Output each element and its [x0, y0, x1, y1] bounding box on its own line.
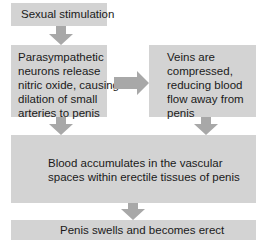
arrow-down-icon: [49, 26, 73, 45]
node-parasympathetic: Parasympathetic neurons release nitric o…: [11, 45, 107, 117]
node-penis-erect: Penis swells and becomes erect: [11, 220, 256, 240]
node-text: Veins are: [167, 50, 256, 64]
node-veins-compressed: Veins are compressed, reducing blood flo…: [149, 45, 256, 117]
node-blood-accumulates: Blood accumulates in the vascular spaces…: [11, 135, 256, 203]
node-text: neurons release: [18, 64, 107, 78]
arrow-right-icon: [114, 71, 149, 95]
node-text: dilation of small: [18, 92, 107, 106]
node-text: compressed,: [167, 64, 256, 78]
node-text: nitric oxide, causing: [18, 78, 107, 92]
node-text: flow away from: [167, 92, 256, 106]
node-text: Sexual stimulation: [21, 7, 107, 21]
arrow-down-icon: [49, 117, 73, 135]
arrow-down-icon: [121, 203, 145, 220]
node-text: Blood accumulates in the vascular: [48, 156, 256, 170]
node-text: reducing blood: [167, 78, 256, 92]
node-text: Parasympathetic: [18, 50, 107, 64]
arrow-down-icon: [194, 117, 218, 135]
node-sexual-stimulation: Sexual stimulation: [11, 3, 107, 26]
node-text: spaces within erectile tissues of penis: [48, 170, 256, 184]
node-text: Penis swells and becomes erect: [60, 223, 256, 237]
